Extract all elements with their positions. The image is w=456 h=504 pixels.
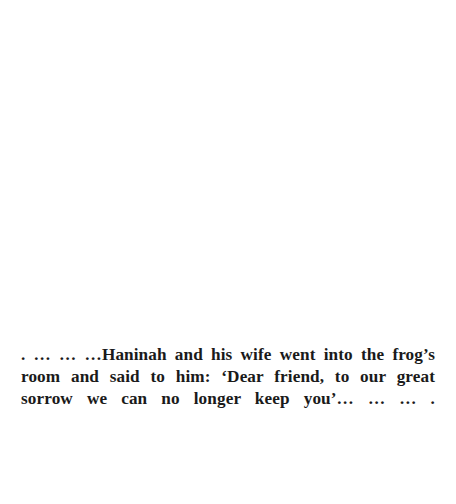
quoted-excerpt-block: . … … …Haninah and his wife went into th… xyxy=(21,344,435,431)
blank-page-area xyxy=(0,0,456,344)
document-page: . … … …Haninah and his wife went into th… xyxy=(0,0,456,504)
excerpt-paragraph: . … … …Haninah and his wife went into th… xyxy=(21,344,435,431)
